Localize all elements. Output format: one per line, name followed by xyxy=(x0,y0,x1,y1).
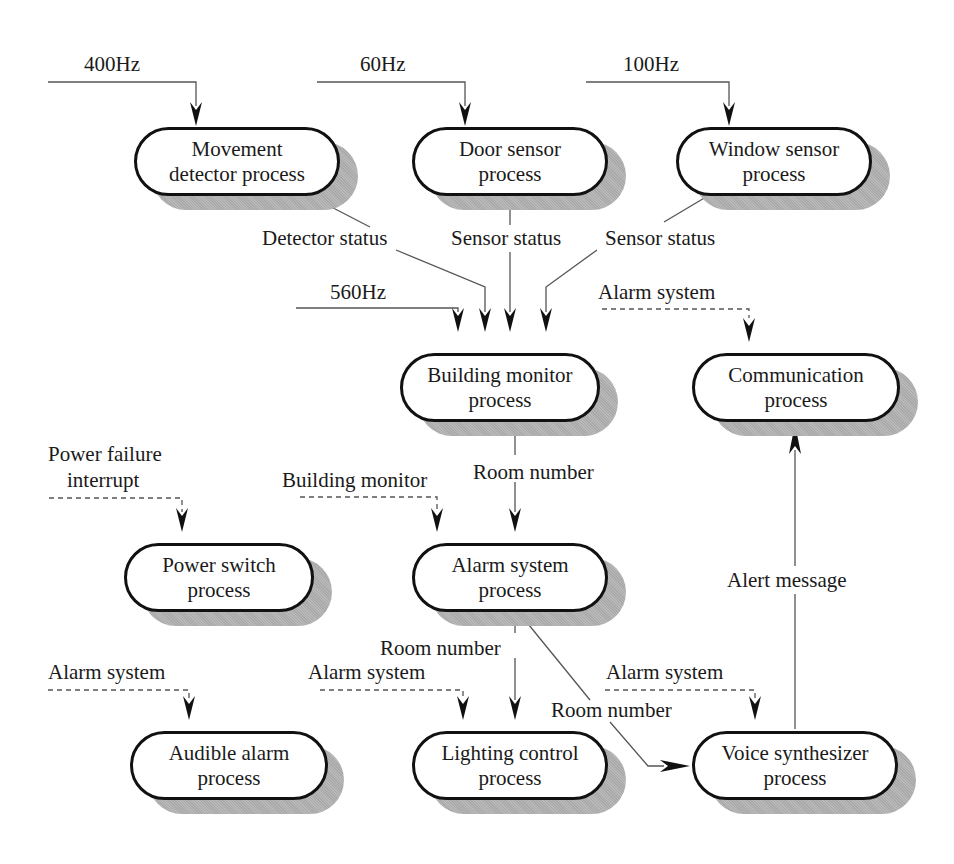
node-label-line: Voice synthesizer xyxy=(721,741,868,766)
arrowhead-icon xyxy=(431,508,443,532)
arrowhead-icon xyxy=(457,696,469,720)
node-label-line: process xyxy=(162,578,276,603)
label-sensor-status-door: Sensor status xyxy=(451,226,561,250)
label-detector-status: Detector status xyxy=(262,226,387,250)
node-label-line: Power switch xyxy=(162,553,276,578)
edge-detector-status-lower xyxy=(396,250,485,312)
node-lighting-control-process: Lighting controlprocess xyxy=(412,731,608,800)
node-label-line: Door sensor xyxy=(459,137,561,162)
label-sensor-status-window: Sensor status xyxy=(605,226,715,250)
node-label-line: process xyxy=(721,766,868,791)
edge-400hz xyxy=(48,82,196,106)
node-label-line: Movement xyxy=(169,137,305,162)
edge-alarm-to-communication xyxy=(602,309,749,318)
label-alarm-system-communication: Alarm system xyxy=(598,280,715,304)
arrowhead-icon xyxy=(743,318,755,342)
arrowhead-icon xyxy=(660,760,690,772)
label-560hz: 560Hz xyxy=(330,280,386,304)
label-alarm-system-audible: Alarm system xyxy=(48,660,165,684)
label-room-number-lighting: Room number xyxy=(380,636,501,660)
label-100hz: 100Hz xyxy=(623,52,679,76)
node-label-line: Alarm system xyxy=(451,553,568,578)
node-building-monitor-process: Building monitorprocess xyxy=(400,353,600,422)
node-label-line: process xyxy=(169,766,290,791)
label-power-failure: Power failure xyxy=(48,442,162,466)
edge-alarm-lighting xyxy=(320,690,463,700)
node-label-line: process xyxy=(441,766,578,791)
label-alarm-system-voice: Alarm system xyxy=(606,660,723,684)
node-label-line: process xyxy=(728,388,863,413)
edge-window-sensor-status xyxy=(664,197,706,222)
label-building-monitor: Building monitor xyxy=(282,468,427,492)
arrowhead-icon xyxy=(183,696,195,720)
node-door-sensor-process: Door sensorprocess xyxy=(412,127,608,196)
label-alert-message: Alert message xyxy=(727,568,847,592)
node-window-sensor-process: Window sensorprocess xyxy=(676,127,872,196)
edge-100hz xyxy=(586,82,729,106)
node-voice-synthesizer-process: Voice synthesizerprocess xyxy=(692,731,898,800)
node-power-switch-process: Power switchprocess xyxy=(124,543,314,612)
label-room-number-voice: Room number xyxy=(551,698,672,722)
node-label-line: process xyxy=(451,578,568,603)
edge-building-monitor xyxy=(300,497,437,512)
node-communication-process: Communicationprocess xyxy=(692,353,900,422)
edge-alarm-audible xyxy=(48,690,189,700)
node-label-line: Audible alarm xyxy=(169,741,290,766)
label-room-number-bm: Room number xyxy=(473,460,594,484)
node-alarm-system-process: Alarm systemprocess xyxy=(412,543,608,612)
node-label-line: process xyxy=(427,388,572,413)
node-label-line: Window sensor xyxy=(709,137,839,162)
node-label-line: Communication xyxy=(728,363,863,388)
label-alarm-system-lighting: Alarm system xyxy=(308,660,425,684)
node-audible-alarm-process: Audible alarmprocess xyxy=(130,731,328,800)
node-label-line: Lighting control xyxy=(441,741,578,766)
node-label-line: process xyxy=(459,162,561,187)
edge-room-number-voice xyxy=(520,614,590,700)
arrowhead-icon xyxy=(749,696,761,720)
node-movement-detector-process: Movementdetector process xyxy=(134,127,340,196)
edge-60hz xyxy=(317,82,465,106)
edge-560hz xyxy=(296,308,458,312)
label-400hz: 400Hz xyxy=(84,52,140,76)
node-label-line: Building monitor xyxy=(427,363,572,388)
node-label-line: process xyxy=(709,162,839,187)
node-label-line: detector process xyxy=(169,162,305,187)
label-interrupt: interrupt xyxy=(67,468,139,492)
edge-power-failure xyxy=(49,498,182,512)
label-60hz: 60Hz xyxy=(360,52,406,76)
